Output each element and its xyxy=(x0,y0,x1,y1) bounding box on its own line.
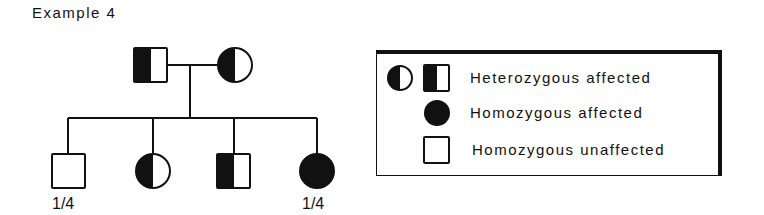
child-1-probability: 1/4 xyxy=(52,195,74,213)
mother-symbol xyxy=(218,48,252,82)
child-3-symbol xyxy=(217,154,250,188)
child-4-symbol xyxy=(300,154,334,188)
child-1-symbol xyxy=(52,154,85,188)
father-symbol xyxy=(134,48,167,82)
legend-label-homozygous-affected: Homozygous affected xyxy=(470,104,643,121)
child-2-symbol xyxy=(136,154,170,188)
legend-label-heterozygous-affected: Heterozygous affected xyxy=(470,69,651,86)
child-4-probability: 1/4 xyxy=(302,195,324,213)
legend-label-homozygous-unaffected: Homozygous unaffected xyxy=(472,141,665,158)
